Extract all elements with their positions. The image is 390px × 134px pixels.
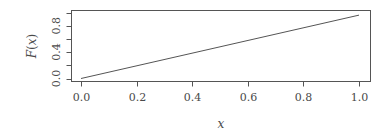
y-axis: 0.00.40.8 — [50, 14, 72, 88]
series-line — [81, 15, 359, 78]
y-label-close: ) — [25, 34, 39, 39]
x-tick-label: 0.4 — [184, 91, 202, 104]
x-axis: 0.00.20.40.60.81.0 — [73, 82, 369, 105]
x-tick-label: 0.6 — [240, 91, 258, 104]
series-layer — [81, 15, 359, 78]
x-tick-label: 0.2 — [129, 91, 147, 104]
y-axis-label: F(x) — [25, 34, 39, 59]
x-tick-label: 1.0 — [351, 91, 369, 104]
svg-text:F(x): F(x) — [25, 34, 39, 59]
x-axis-label: x — [218, 117, 225, 131]
y-tick-label: 0.4 — [50, 43, 63, 61]
y-tick-label: 0.0 — [50, 70, 63, 88]
cdf-chart: 0.00.20.40.60.81.0 0.00.40.8 x F(x) — [0, 0, 390, 134]
x-tick-label: 0.8 — [295, 91, 313, 104]
x-tick-label: 0.0 — [73, 91, 91, 104]
y-tick-label: 0.8 — [50, 17, 63, 35]
